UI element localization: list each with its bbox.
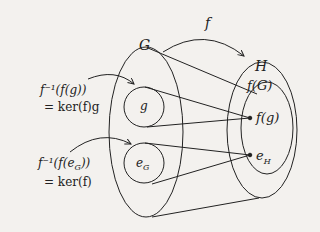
point-f-g: [248, 116, 252, 120]
map-arrow-f: [163, 39, 244, 56]
element-label-fg: f(g): [256, 111, 279, 124]
eH-sub: H: [264, 157, 271, 166]
point-e-H: [248, 153, 252, 157]
preimage-g-line2: = ker(f)g: [44, 101, 99, 113]
arrow-preimage-e: [70, 138, 131, 152]
element-label-eH: eH: [256, 149, 271, 166]
element-label-eG: eG: [136, 157, 150, 172]
preimage-e-line1: f⁻¹(f(eG)): [38, 157, 90, 172]
preimage-e-pre: f⁻¹(f(e: [38, 156, 75, 170]
codomain-label-H: H: [255, 59, 267, 73]
domain-set-G: [109, 47, 183, 217]
preimage-e-line2: = ker(f): [44, 176, 92, 188]
preimage-g-line1: f⁻¹(f(g)): [40, 84, 86, 96]
eH-base: e: [256, 148, 264, 163]
element-label-g: g: [140, 100, 148, 112]
map-label-f: f: [205, 16, 210, 30]
eG-sub: G: [143, 163, 149, 172]
domain-label-G: G: [139, 38, 150, 52]
image-label-fG: f(G): [247, 79, 272, 92]
arrow-preimage-g: [88, 75, 134, 84]
preimage-e-post: )): [81, 156, 90, 170]
